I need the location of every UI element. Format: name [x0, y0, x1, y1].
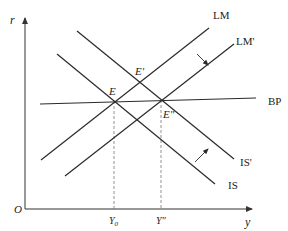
x-axis-label: y: [244, 215, 251, 229]
lm-label: LM: [213, 9, 230, 21]
is-lm-bp-diagram: r y O LM LM' IS IS' BP E E' E" Y0 Y": [0, 0, 288, 231]
lm-prime-curve: [65, 44, 234, 176]
point-e-prime-label: E': [134, 65, 145, 77]
bp-curve: [40, 98, 256, 104]
is-label: IS: [228, 179, 238, 191]
equilibrium-points: E E' E": [108, 65, 175, 120]
lm-prime-label: LM': [236, 35, 255, 47]
y0-tick-subscript: 0: [115, 220, 119, 228]
axes: r y O: [10, 13, 252, 229]
is-prime-curve: [77, 31, 234, 159]
y0-tick-label: Y0: [109, 215, 119, 228]
guide-lines: [114, 100, 161, 209]
bp-label: BP: [268, 95, 281, 107]
curves: [40, 28, 256, 184]
is-shift-arrow-icon: [195, 149, 208, 162]
lm-curve: [41, 28, 209, 160]
origin-label: O: [14, 203, 22, 215]
is-prime-label: IS': [240, 156, 252, 168]
curve-labels: LM LM' IS IS' BP: [213, 9, 281, 191]
point-e-label: E: [108, 85, 116, 97]
shift-arrows: [195, 54, 208, 162]
x-tick-labels: Y0 Y": [109, 215, 167, 228]
y-axis-label: r: [10, 13, 15, 27]
lm-shift-arrow-icon: [197, 54, 208, 65]
point-e-double-prime-label: E": [162, 108, 175, 120]
y-double-prime-tick-label: Y": [156, 215, 167, 226]
